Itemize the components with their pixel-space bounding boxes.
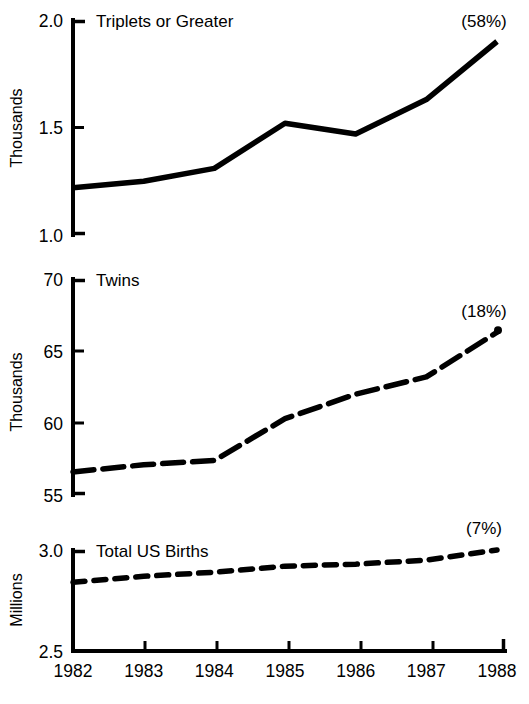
panel-0-title: Triplets or Greater xyxy=(96,12,234,31)
panel-1-y-tick-label-0: 55 xyxy=(44,486,63,506)
x-tick-label-1985: 1985 xyxy=(266,661,305,681)
chart-figure: 2.0 1.5 1.0 Thousands Triplets or Greate… xyxy=(0,0,529,704)
x-tick-label-1986: 1986 xyxy=(336,661,375,681)
x-tick-label-1982: 1982 xyxy=(54,661,93,681)
panel-0-y-tick-label-0: 1.0 xyxy=(39,226,64,246)
panel-1-title: Twins xyxy=(96,271,139,290)
panel-1-end-marker xyxy=(494,326,502,334)
panel-1-y-tick-label-3: 70 xyxy=(44,270,64,290)
panel-2-y-axis-title: Millions xyxy=(8,573,25,626)
x-tick-label-1988: 1988 xyxy=(478,661,517,681)
panel-2-y-tick-label-1: 3.0 xyxy=(39,541,64,561)
panel-1-y-tick-label-2: 65 xyxy=(44,342,63,362)
panel-0-annotation: (58%) xyxy=(461,12,506,31)
x-tick-label-1987: 1987 xyxy=(407,661,446,681)
chart-canvas: 2.0 1.5 1.0 Thousands Triplets or Greate… xyxy=(0,0,529,704)
panel-0-y-axis-title: Thousands xyxy=(8,88,25,167)
panel-2-annotation: (7%) xyxy=(466,519,502,538)
panel-1-y-axis-title: Thousands xyxy=(8,352,25,431)
x-tick-label-1983: 1983 xyxy=(124,661,163,681)
panel-0-y-tick-label-1: 1.5 xyxy=(39,118,63,138)
panel-2-y-tick-label-0: 2.5 xyxy=(39,642,63,662)
panel-0-y-tick-label-2: 2.0 xyxy=(39,11,64,31)
panel-1-y-tick-label-1: 60 xyxy=(44,414,64,434)
panel-2-title: Total US Births xyxy=(96,542,208,561)
x-tick-label-1984: 1984 xyxy=(195,661,234,681)
panel-1-annotation: (18%) xyxy=(461,302,506,321)
